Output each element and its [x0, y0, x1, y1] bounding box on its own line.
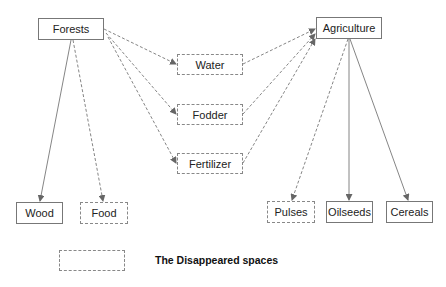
node-wood: Wood: [16, 202, 63, 224]
node-agriculture: Agriculture: [316, 17, 382, 39]
edge-agriculture-cereals: [350, 39, 408, 200]
node-pulses: Pulses: [267, 201, 315, 223]
node-food: Food: [80, 202, 128, 224]
edges-layer: [0, 0, 446, 287]
node-fertilizer: Fertilizer: [177, 153, 243, 174]
legend-swatch: [59, 250, 125, 271]
edge-forests-fertilizer: [108, 37, 176, 163]
node-water: Water: [177, 54, 243, 75]
node-forests: Forests: [38, 18, 104, 40]
node-oilseeds: Oilseeds: [326, 201, 373, 223]
edge-agriculture-pulses: [292, 39, 348, 200]
legend-label: The Disappeared spaces: [155, 254, 278, 266]
edge-fertilizer-agriculture: [243, 39, 315, 163]
node-cereals: Cereals: [386, 201, 433, 223]
edge-forests-food: [73, 40, 103, 201]
edge-forests-wood: [40, 40, 71, 201]
node-fodder: Fodder: [177, 104, 243, 125]
edge-forests-water: [104, 29, 176, 64]
edge-forests-fodder: [106, 33, 176, 114]
